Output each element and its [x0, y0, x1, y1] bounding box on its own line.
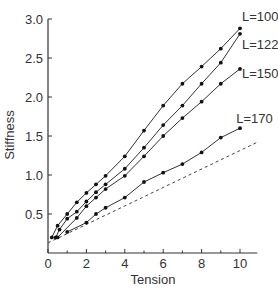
series-line	[52, 28, 240, 237]
data-point	[94, 190, 98, 194]
data-point	[56, 224, 60, 228]
data-point	[104, 174, 108, 178]
data-point	[200, 82, 204, 86]
data-point	[104, 206, 108, 210]
data-point	[50, 236, 54, 240]
data-point	[142, 180, 146, 184]
data-point	[65, 230, 69, 234]
data-point	[200, 100, 204, 104]
data-point	[75, 200, 79, 204]
data-point	[94, 196, 98, 200]
series-label: L=100	[242, 9, 278, 24]
series-l-122	[54, 32, 242, 239]
x-tick-label: 10	[233, 256, 247, 271]
data-point	[123, 167, 127, 171]
data-point	[161, 104, 165, 108]
data-point	[56, 236, 60, 240]
data-point	[219, 82, 223, 86]
data-point	[75, 210, 79, 214]
data-point	[104, 182, 108, 186]
series-label: L=170	[236, 111, 273, 126]
data-point	[238, 32, 242, 36]
data-point	[161, 171, 165, 175]
data-point	[219, 61, 223, 65]
series-l-100	[50, 26, 242, 239]
x-tick-label: 8	[198, 256, 205, 271]
data-point	[75, 216, 79, 220]
data-point	[85, 191, 89, 195]
y-tick-label: 1.5	[25, 129, 43, 144]
data-point	[161, 134, 165, 138]
data-point	[85, 204, 89, 208]
y-tick-label: 2.5	[25, 51, 43, 66]
series-l-150	[56, 67, 242, 239]
data-point	[94, 212, 98, 216]
data-point	[181, 116, 185, 120]
series-line	[56, 34, 240, 238]
data-point	[94, 182, 98, 186]
data-point	[200, 150, 204, 154]
series-line	[67, 128, 240, 232]
data-point	[85, 200, 89, 204]
data-point	[238, 26, 242, 30]
data-point	[161, 123, 165, 127]
data-point	[142, 154, 146, 158]
data-point	[181, 82, 185, 86]
series-label: L=122	[242, 37, 278, 52]
data-point	[65, 217, 69, 221]
x-tick-label: 4	[121, 256, 128, 271]
data-point	[238, 126, 242, 130]
data-point	[181, 162, 185, 166]
y-tick-label: 3.0	[25, 12, 43, 27]
data-point	[58, 228, 62, 232]
dashed-line	[48, 142, 257, 243]
series-line	[58, 69, 240, 238]
x-tick-label: 2	[83, 256, 90, 271]
data-point	[181, 104, 185, 108]
axes: 02468100.51.01.52.02.53.0	[25, 12, 257, 272]
data-point	[123, 154, 127, 158]
data-point	[104, 187, 108, 191]
data-point	[219, 136, 223, 140]
y-tick-label: 2.0	[25, 90, 43, 105]
series-labels: L=100L=122L=150L=170	[236, 9, 278, 125]
y-tick-label: 1.0	[25, 168, 43, 183]
stiffness-tension-chart: 02468100.51.01.52.02.53.0 L=100L=122L=15…	[0, 0, 278, 293]
data-point	[123, 174, 127, 178]
data-point	[65, 212, 69, 216]
reference-dashed-line	[48, 142, 257, 243]
data-point	[142, 146, 146, 150]
x-tick-label: 0	[44, 256, 51, 271]
data-point	[85, 221, 89, 225]
series-group	[50, 26, 242, 239]
series-label: L=150	[242, 66, 278, 81]
data-point	[200, 65, 204, 69]
data-point	[219, 47, 223, 51]
series-l-170	[65, 126, 242, 234]
data-point	[142, 129, 146, 133]
y-tick-label: 0.5	[25, 207, 43, 222]
x-tick-label: 6	[160, 256, 167, 271]
y-axis-title: Stiffness	[2, 110, 17, 160]
x-axis-title: Tension	[131, 272, 176, 287]
data-point	[123, 196, 127, 200]
